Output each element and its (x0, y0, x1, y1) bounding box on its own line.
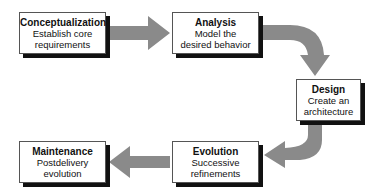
stage-desc-line1: Successive (173, 157, 258, 168)
stage-title: Design (297, 84, 360, 95)
stage-evolution: Evolution Successive refinements (172, 141, 259, 183)
stage-desc-line1: Postdelivery (20, 157, 105, 168)
stage-desc-line1: Establish core (20, 28, 105, 39)
arrow-evolution-to-maintenance (109, 146, 170, 178)
stage-conceptualization: Conceptualization Establish core require… (19, 12, 106, 54)
stage-desc-line2: desired behavior (173, 39, 258, 50)
stage-desc-line2: architecture (297, 106, 360, 117)
stage-design: Design Create an architecture (296, 79, 361, 121)
stage-maintenance: Maintenance Postdelivery evolution (19, 141, 106, 183)
stage-title: Evolution (173, 146, 258, 157)
arrow-design-to-evolution (264, 124, 322, 168)
stage-desc-line1: Model the (173, 28, 258, 39)
stage-desc-line1: Create an (297, 95, 360, 106)
stage-desc-line2: evolution (20, 168, 105, 179)
stage-desc-line2: requirements (20, 39, 105, 50)
stage-desc-line2: refinements (173, 168, 258, 179)
stage-analysis: Analysis Model the desired behavior (172, 12, 259, 54)
arrow-analysis-to-design (263, 25, 330, 76)
arrow-conceptualization-to-analysis (109, 16, 170, 50)
stage-title: Maintenance (20, 146, 105, 157)
stage-title: Conceptualization (20, 17, 105, 28)
stage-title: Analysis (173, 17, 258, 28)
